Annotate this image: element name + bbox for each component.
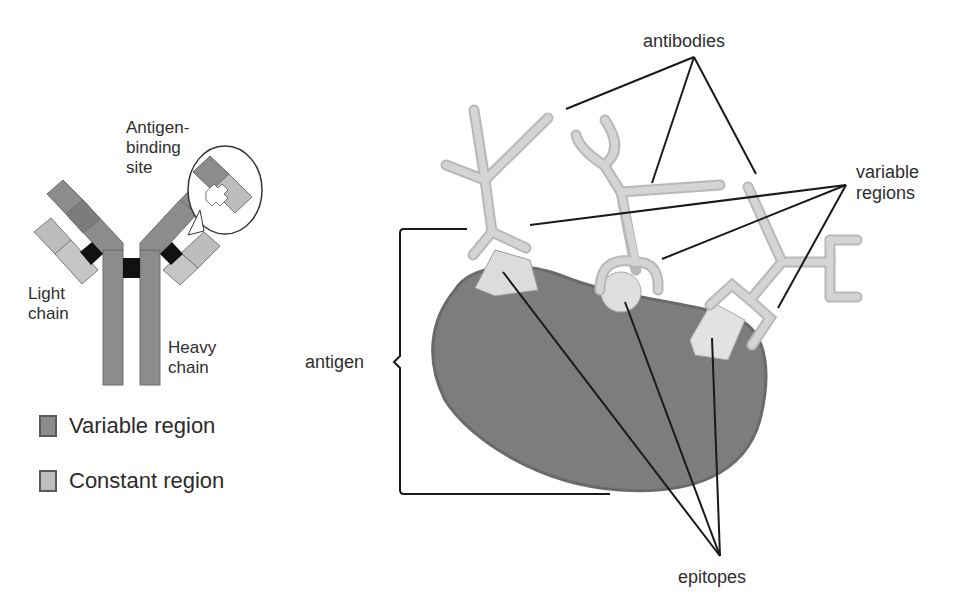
legend-label-variable-region: Variable region bbox=[69, 413, 215, 439]
hinge-disulfide-bond bbox=[123, 258, 140, 278]
variable-regions-label-line1: variable bbox=[856, 162, 919, 183]
constant-region-swatch-icon bbox=[39, 470, 57, 492]
variable-region-swatch-icon bbox=[39, 415, 57, 437]
variable-regions-label: variable regions bbox=[856, 162, 919, 204]
antigen-binding-site-label-line1: Antigen- bbox=[126, 118, 189, 138]
light-chain-label: Light chain bbox=[28, 284, 69, 324]
epitopes-label: epitopes bbox=[678, 567, 746, 588]
variable-regions-label-line2: regions bbox=[856, 183, 919, 204]
legend-item-variable-region: Variable region bbox=[39, 413, 215, 439]
diagram-canvas bbox=[0, 0, 960, 613]
heavy-chain-label: Heavy chain bbox=[168, 338, 216, 378]
antigen-label: antigen bbox=[305, 352, 364, 373]
antibody-left-inner bbox=[446, 110, 548, 255]
antigen-binding-site-label-line3: site bbox=[126, 158, 189, 178]
heavy-chain-label-line2: chain bbox=[168, 358, 216, 378]
antibodies-label: antibodies bbox=[643, 31, 725, 52]
legend-label-constant-region: Constant region bbox=[69, 468, 224, 494]
antigen-binding-site-label: Antigen- binding site bbox=[126, 118, 189, 178]
legend-item-constant-region: Constant region bbox=[39, 468, 224, 494]
heavy-chain-label-line1: Heavy bbox=[168, 338, 216, 358]
heavy-chain-stem-left bbox=[103, 250, 123, 385]
antibody-schematic bbox=[34, 146, 262, 385]
heavy-chain-stem-right bbox=[140, 250, 160, 385]
epitope-left bbox=[475, 250, 538, 296]
light-chain-label-line1: Light bbox=[28, 284, 69, 304]
antigen-binding-illustration bbox=[394, 57, 857, 556]
antibody-center-inner bbox=[576, 120, 720, 290]
antigen-binding-site-label-line2: binding bbox=[126, 138, 189, 158]
light-chain-label-line2: chain bbox=[28, 304, 69, 324]
